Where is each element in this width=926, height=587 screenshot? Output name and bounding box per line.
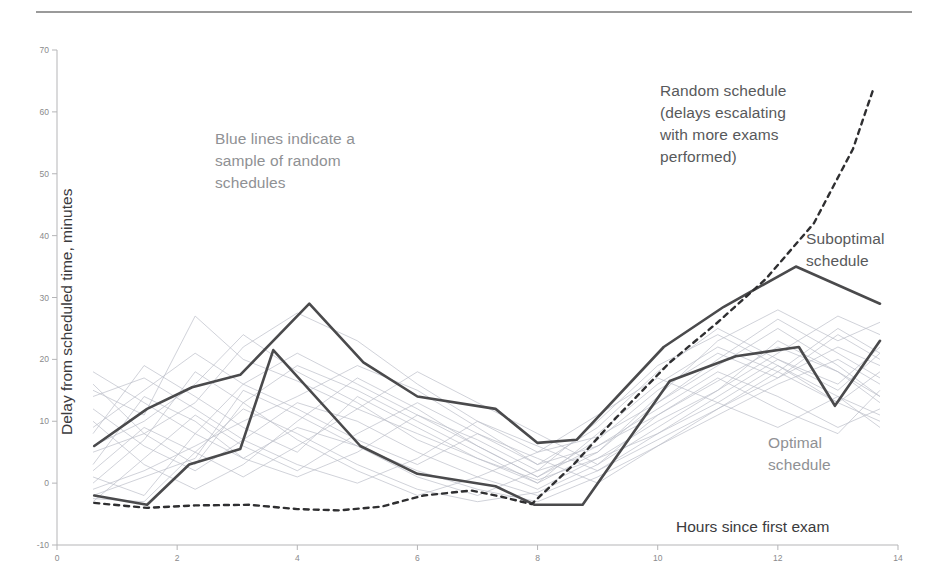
random-sample-line <box>93 372 880 477</box>
y-axis-label: Delay from scheduled time, minutes <box>58 135 76 435</box>
random-sample-line <box>93 316 880 480</box>
x-tick-label: 8 <box>529 553 547 563</box>
y-axis-label-wrapper: Delay from scheduled time, minutes <box>58 135 84 435</box>
x-tick-label: 0 <box>48 553 66 563</box>
random-sample-line <box>93 316 880 502</box>
chart-figure: -10010203040506070 02468101214 Delay fro… <box>0 0 926 587</box>
x-tick-label: 2 <box>168 553 186 563</box>
y-tick-label: 50 <box>31 169 49 179</box>
y-tick-label: 10 <box>31 416 49 426</box>
x-axis-label: Hours since first exam <box>676 518 829 536</box>
x-tick-label: 12 <box>769 553 787 563</box>
y-tick-label: 70 <box>31 45 49 55</box>
x-tick-label: 4 <box>288 553 306 563</box>
y-tick-label: 30 <box>31 293 49 303</box>
random-sample-line <box>93 310 880 477</box>
random-sample-line <box>93 335 880 496</box>
x-tick-label: 6 <box>408 553 426 563</box>
y-tick-label: -10 <box>31 540 49 550</box>
annotation-optimal-schedule: Optimal schedule <box>768 432 888 476</box>
y-tick-label: 20 <box>31 354 49 364</box>
x-tick-label: 10 <box>649 553 667 563</box>
y-tick-label: 0 <box>31 478 49 488</box>
annotation-random-schedule: Random schedule (delays escalating with … <box>660 80 860 168</box>
y-tick-label: 40 <box>31 231 49 241</box>
x-tick-label: 14 <box>889 553 907 563</box>
random-sample-line <box>93 353 880 495</box>
random-sample-line <box>93 335 880 496</box>
y-tick-label: 60 <box>31 107 49 117</box>
annotation-suboptimal-schedule: Suboptimal schedule <box>806 228 926 272</box>
random-sample-line <box>93 335 880 490</box>
annotation-blue-lines: Blue lines indicate a sample of random s… <box>215 128 435 194</box>
random-sample-line <box>93 359 880 501</box>
random-sample-lines <box>93 310 880 502</box>
